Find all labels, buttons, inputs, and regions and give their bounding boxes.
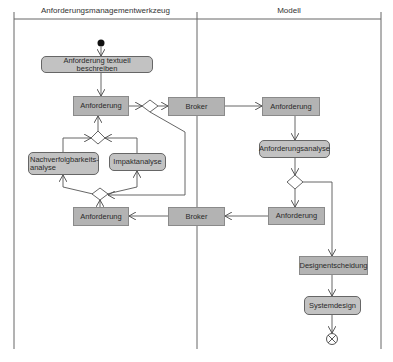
decision-diamond-top [142, 100, 158, 112]
object-designentscheidung: Designentscheidung [299, 256, 368, 275]
merge-diamond-upper-left [91, 131, 105, 144]
activity-impaktanalyse: Impaktanalyse [109, 153, 166, 171]
object-anforderung-right-top: Anforderung [262, 97, 320, 116]
start-node [98, 40, 105, 47]
object-anforderung-left-bottom: Anforderung [73, 207, 129, 226]
decision-diamond-lower-left [92, 188, 108, 200]
object-broker-top: Broker [168, 97, 225, 116]
activity-systemdesign: Systemdesign [304, 296, 361, 315]
lane-title-modell: Modell [197, 6, 381, 15]
end-node [327, 334, 338, 345]
activity-anforderung-textuell: Anforderung textuell beschreiben [41, 56, 153, 73]
lane-title-anforderungsmanagement: Anforderungsmanagementwerkzeug [14, 6, 197, 15]
object-anforderung-left-top: Anforderung [73, 96, 129, 116]
decision-diamond-right [287, 175, 303, 189]
object-anforderung-right-bottom: Anforderung [268, 207, 325, 225]
object-broker-bottom: Broker [168, 207, 225, 226]
activity-nachverfolgbarkeitsanalyse: Nachverfolgbarkeits-analyse [28, 152, 99, 175]
activity-anforderungsanalyse: Anforderungsanalyse [259, 140, 330, 158]
